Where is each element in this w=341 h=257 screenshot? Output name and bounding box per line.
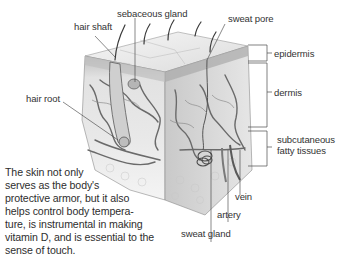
caption-line: helps control body tempera- bbox=[5, 205, 165, 218]
caption-line: vitamin D, and is essential to the bbox=[5, 231, 165, 244]
label-sweat-gland: sweat gland bbox=[181, 228, 231, 239]
label-hair-root: hair root bbox=[26, 93, 60, 104]
label-vein: vein bbox=[235, 191, 252, 202]
label-sweat-pore: sweat pore bbox=[228, 13, 273, 24]
caption-paragraph: The skin not only serves as the body's p… bbox=[5, 166, 165, 257]
sebaceous-gland-shape bbox=[128, 79, 140, 89]
caption-line: protective armor, but it also bbox=[5, 192, 165, 205]
hair-bulb bbox=[119, 137, 129, 147]
label-epidermis: epidermis bbox=[274, 48, 314, 59]
caption-line: ture, is instrumental in making bbox=[5, 218, 165, 231]
label-hair-shaft: hair shaft bbox=[74, 21, 112, 32]
label-sebaceous-gland: sebaceous gland bbox=[117, 8, 187, 19]
caption-line: The skin not only bbox=[5, 166, 165, 179]
caption-line: sense of touch. bbox=[5, 244, 165, 257]
label-dermis: dermis bbox=[274, 87, 302, 98]
layer-brackets bbox=[248, 45, 272, 166]
label-artery: artery bbox=[217, 209, 241, 220]
bracket-epidermis bbox=[248, 45, 267, 61]
label-subcutaneous-line2: fatty tissues bbox=[277, 145, 326, 156]
caption-line: serves as the body's bbox=[5, 179, 165, 192]
label-subcutaneous-line1: subcutaneous bbox=[277, 134, 335, 145]
bracket-dermis bbox=[248, 63, 267, 127]
